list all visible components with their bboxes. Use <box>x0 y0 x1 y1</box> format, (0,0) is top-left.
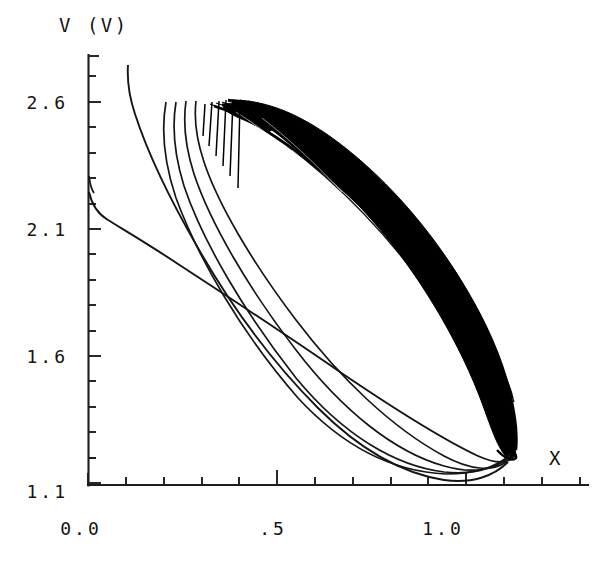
y-tick-label-1-1: 1.1 <box>6 481 68 502</box>
y-tick-label-2-1: 2.1 <box>6 219 68 240</box>
y-axis-title: V (V) <box>59 14 129 36</box>
x-tick-label-0-5: .5 <box>228 518 318 539</box>
x-tick-label-0-0: 0.0 <box>36 518 126 539</box>
y-tick-label-2-6: 2.6 <box>6 92 68 113</box>
attractor-band <box>214 100 517 459</box>
figure-canvas: V (V) X 2.6 2.1 1.6 1.1 0.0 .5 1.0 <box>0 0 596 562</box>
x-tick-label-1-0: 1.0 <box>398 518 488 539</box>
phase-portrait-plot <box>0 0 596 562</box>
x-axis-title: X <box>549 447 560 469</box>
y-axis-ticks <box>88 56 101 483</box>
y-tick-label-1-6: 1.6 <box>6 346 68 367</box>
